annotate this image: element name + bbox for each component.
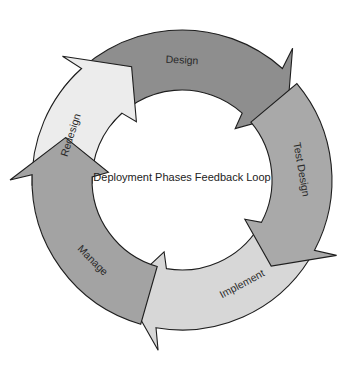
phase-arrows — [10, 30, 337, 350]
feedback-loop-diagram: DesignTest DesignImplementManageRedesign… — [0, 0, 363, 377]
arrow-manage — [10, 138, 157, 325]
arrow-manage-shape — [10, 138, 157, 325]
diagram-title: Deployment Phases Feedback Loop — [93, 171, 270, 183]
label-design: Design — [165, 53, 198, 67]
